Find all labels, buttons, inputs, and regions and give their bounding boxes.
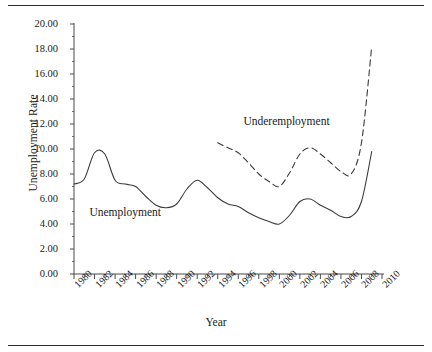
y-tick-label: 2.00: [12, 243, 58, 254]
y-tick-label: 14.00: [12, 93, 58, 104]
y-tick-label: 20.00: [12, 18, 58, 29]
series-layer: [74, 47, 372, 225]
series-label-underemployment: Underemployment: [243, 115, 329, 127]
y-tick-label: 18.00: [12, 43, 58, 54]
y-tick-label: 16.00: [12, 68, 58, 79]
x-axis-title: Year: [0, 316, 432, 328]
y-tick-label: 10.00: [12, 143, 58, 154]
y-tick-label: 4.00: [12, 218, 58, 229]
axis-layer: [70, 23, 384, 279]
y-tick-label: 8.00: [12, 168, 58, 179]
y-tick-label: 6.00: [12, 193, 58, 204]
y-tick-label: 0.00: [12, 268, 58, 279]
chart-figure: Unemployment Rate Year 0.002.004.006.008…: [0, 0, 432, 352]
line-chart-canvas: [0, 0, 432, 352]
y-tick-label: 12.00: [12, 118, 58, 129]
series-label-unemployment: Unemployment: [89, 206, 161, 218]
